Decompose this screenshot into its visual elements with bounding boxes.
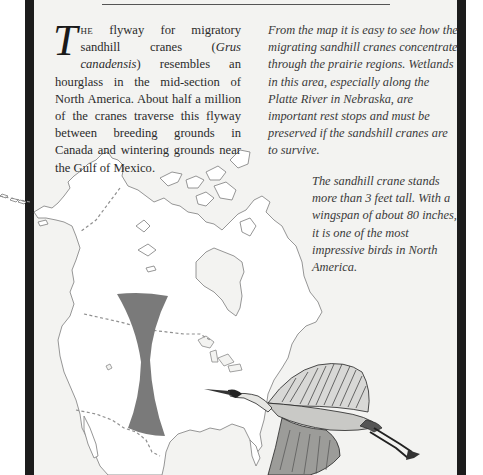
lead-smallcaps: he bbox=[80, 23, 93, 37]
mainland-outline bbox=[34, 152, 322, 475]
intro-paragraph: The flyway for migratory sandhill cranes… bbox=[55, 22, 241, 177]
drop-cap: T bbox=[53, 24, 77, 58]
map-caption-paragraph: From the map it is easy to see how the m… bbox=[268, 22, 458, 160]
intro-text-2: ) resembles an hourglass in the mid-sect… bbox=[55, 57, 241, 174]
page: The flyway for migratory sandhill cranes… bbox=[0, 0, 483, 475]
crane-facts-paragraph: The sandhill crane stands more than 3 fe… bbox=[312, 173, 462, 276]
